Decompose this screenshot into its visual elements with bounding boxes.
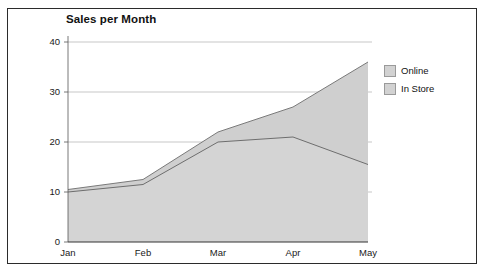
legend-item-online[interactable]: Online [384,62,434,80]
y-tick-label-30: 30 [38,87,60,97]
x-tick-label-jan: Jan [38,248,98,258]
tick-marks [64,42,68,242]
area-fill-in-store [68,137,368,242]
x-tick-label-feb: Feb [113,248,173,258]
legend-item-in-store[interactable]: In Store [384,80,434,98]
y-tick-label-20: 20 [38,137,60,147]
y-tick-label-10: 10 [38,187,60,197]
chart-legend: OnlineIn Store [384,62,434,98]
legend-item-label: Online [401,66,428,76]
y-tick-label-40: 40 [38,37,60,47]
chart-plot-area [0,0,491,276]
x-tick-label-apr: Apr [263,248,323,258]
area-series-group [68,62,368,242]
x-tick-label-may: May [338,248,398,258]
legend-swatch-icon [384,65,396,77]
legend-swatch-icon [384,83,396,95]
x-tick-label-mar: Mar [188,248,248,258]
y-tick-label-0: 0 [38,237,60,247]
legend-item-label: In Store [401,84,434,94]
